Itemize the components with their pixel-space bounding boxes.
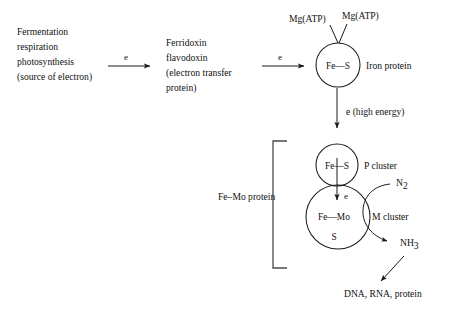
iron-protein-node: Fe—S Iron protein	[316, 43, 412, 87]
m-cluster-node-text-1: Fe—Mo	[318, 212, 350, 222]
mg-atp-left-label: Mg(ATP)	[289, 13, 326, 25]
final-products-label: DNA, RNA, protein	[344, 288, 422, 299]
product-nh3-label: NH3	[400, 237, 419, 251]
arrow-to-final-products: DNA, RNA, protein	[344, 256, 422, 299]
arrow-carrier-to-iron-protein: e	[262, 52, 304, 66]
iron-protein-node-text: Fe—S	[326, 61, 350, 71]
carrier-line-3: (electron transfer	[166, 67, 233, 79]
source-line-1: Fermentation	[17, 26, 68, 37]
arrow-high-energy-electron: e (high energy)	[337, 88, 404, 128]
carrier-line-2: flavodoxin	[166, 52, 208, 63]
mg-atp-left-connector	[330, 25, 338, 43]
mg-atp-right-connector	[339, 24, 347, 43]
carrier-line-1: Ferridoxin	[166, 37, 207, 48]
m-cluster-label: M cluster	[372, 211, 409, 222]
carrier-line-4: protein)	[166, 82, 196, 94]
source-line-4: (source of electron)	[17, 71, 92, 83]
mg-atp-cofactors: Mg(ATP) Mg(ATP)	[289, 10, 379, 43]
m-cluster-node: Fe—Mo S M cluster	[306, 185, 409, 249]
arrow-source-to-carrier: e	[108, 52, 150, 66]
electron-carrier-text: Ferridoxin flavodoxin (electron transfer…	[166, 37, 233, 94]
fe-mo-protein-bracket	[273, 141, 287, 268]
diagram-canvas: Fermentation respiration photosynthesis …	[0, 0, 464, 309]
electron-source-text: Fermentation respiration photosynthesis …	[17, 26, 92, 83]
m-cluster-node-text-2: S	[331, 232, 336, 242]
source-line-2: respiration	[17, 41, 58, 52]
iron-protein-label: Iron protein	[366, 60, 412, 71]
nitrogenase-pathway-diagram: Fermentation respiration photosynthesis …	[0, 0, 464, 309]
internal-electron-label: e	[344, 191, 348, 201]
source-line-3: photosynthesis	[17, 56, 74, 67]
mg-atp-right-label: Mg(ATP)	[342, 10, 379, 22]
arrow1-electron-label: e	[124, 52, 128, 62]
p-cluster-label: P cluster	[364, 160, 398, 171]
p-cluster-node: Fe—S P cluster	[316, 144, 398, 186]
high-energy-label: e (high energy)	[346, 106, 404, 118]
arrow2-electron-label: e	[278, 52, 282, 62]
fe-mo-protein-label: Fe–Mo protein	[218, 191, 275, 202]
substrate-n2-label: N2	[396, 177, 408, 191]
